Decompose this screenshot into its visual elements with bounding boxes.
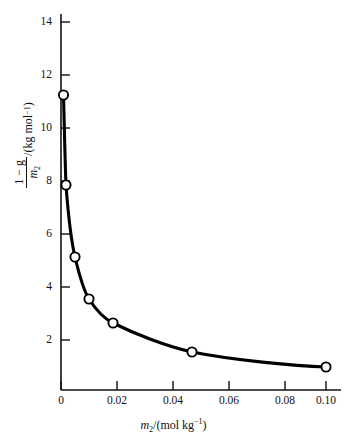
y-tick-label-2: 2 bbox=[22, 333, 52, 345]
data-point bbox=[59, 90, 68, 99]
data-point bbox=[61, 180, 70, 189]
x-axis-title-units-close: ) bbox=[203, 418, 207, 432]
y-tick-label-4: 4 bbox=[22, 280, 52, 292]
x-tick-label-0: 0 bbox=[46, 394, 76, 406]
data-curve bbox=[64, 95, 327, 367]
x-axis-ticks bbox=[61, 381, 326, 390]
y-axis-title-units: /(kg mol bbox=[22, 115, 34, 156]
y-axis-title-units-close: ) bbox=[22, 102, 34, 106]
x-tick-label-0.04: 0.04 bbox=[153, 394, 193, 406]
x-axis-title-units-sup: −1 bbox=[194, 417, 203, 426]
data-markers bbox=[59, 90, 331, 371]
x-tick-label-0.02: 0.02 bbox=[97, 394, 137, 406]
x-tick-label-0.08: 0.08 bbox=[265, 394, 305, 406]
y-axis-title: 1 − gm2/(kg mol−1) bbox=[13, 102, 42, 187]
y-tick-label-14: 14 bbox=[22, 15, 52, 27]
y-axis-title-wrapper: 1 − gm2/(kg mol−1) bbox=[8, 55, 48, 235]
data-point bbox=[108, 318, 117, 327]
y-axis-title-numerator: 1 − g bbox=[13, 157, 26, 188]
data-point bbox=[70, 252, 79, 261]
data-point bbox=[321, 362, 330, 371]
x-axis-title: m2/(mol kg−1) bbox=[0, 417, 347, 434]
y-axis-title-den-var: m bbox=[26, 170, 40, 179]
x-axis-title-var: m bbox=[140, 418, 149, 432]
data-point bbox=[187, 347, 196, 356]
y-axis-title-den-sub: 2 bbox=[33, 166, 42, 170]
y-axis-title-fraction: 1 − gm2 bbox=[13, 157, 42, 188]
plot-area bbox=[0, 0, 347, 445]
x-axis-title-units: /(mol kg bbox=[153, 418, 194, 432]
data-point bbox=[84, 294, 93, 303]
y-axis-title-denominator: m2 bbox=[27, 163, 43, 182]
x-tick-label-0.06: 0.06 bbox=[209, 394, 249, 406]
axis-lines bbox=[61, 14, 341, 390]
y-axis-title-units-sup: −1 bbox=[24, 106, 32, 115]
x-tick-label-0.10: 0.10 bbox=[306, 394, 346, 406]
chart-figure: 14 12 10 8 6 4 2 0 0.02 0.04 0.06 0.08 0… bbox=[0, 0, 347, 445]
